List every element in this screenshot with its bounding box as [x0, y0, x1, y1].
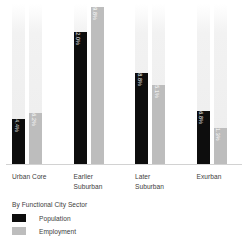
- x-axis-labels: Urban Core Earlier Suburban Later Suburb…: [0, 172, 246, 191]
- bar-population-exurban[interactable]: 16.8%: [197, 111, 210, 164]
- bar-value-label: 16.2%: [30, 113, 35, 126]
- bar-group-earlier-suburban: 42.0% 49.8%: [62, 0, 124, 164]
- label-line-1: Earlier: [74, 172, 124, 182]
- bar-slot-population: 16.8%: [197, 0, 210, 164]
- x-axis-label-urban-core: Urban Core: [0, 172, 62, 191]
- bar-value-label: 14.4%: [13, 119, 18, 132]
- bar-groups: 14.4% 16.2% 42.0%: [0, 0, 246, 164]
- bar-population-later-suburban[interactable]: 28.8%: [135, 73, 148, 164]
- bar-value-label: 28.8%: [136, 73, 141, 86]
- bar-slot-population: 42.0%: [74, 0, 87, 164]
- bar-value-label: 16.8%: [198, 111, 203, 124]
- bar-slot-population: 28.8%: [135, 0, 148, 164]
- x-axis-label-later-suburban: Later Suburban: [123, 172, 185, 191]
- bar-population-earlier-suburban[interactable]: 42.0%: [74, 32, 87, 164]
- label-line-2: Suburban: [135, 182, 185, 192]
- bar-population-urban-core[interactable]: 14.4%: [12, 119, 25, 164]
- legend-item-population[interactable]: Population: [12, 214, 192, 222]
- bar-employment-exurban[interactable]: 11.3%: [214, 128, 227, 164]
- bar-chart: 14.4% 16.2% 42.0%: [0, 0, 246, 250]
- bar-value-label: 42.0%: [75, 32, 80, 45]
- label-line-1: Exurban: [197, 172, 247, 182]
- legend-swatch-population: [12, 214, 26, 222]
- legend-label-employment: Employment: [39, 228, 76, 235]
- bar-value-label: 25.1%: [153, 85, 158, 98]
- label-line-1: Later: [135, 172, 185, 182]
- legend-item-employment[interactable]: Employment: [12, 227, 192, 235]
- x-axis-line: [6, 164, 242, 165]
- bar-employment-later-suburban[interactable]: 25.1%: [152, 85, 165, 164]
- bar-slot-population: 14.4%: [12, 0, 25, 164]
- legend: By Functional City Sector Population Emp…: [12, 201, 192, 240]
- legend-swatch-employment: [12, 227, 26, 235]
- bar-value-label: 11.3%: [215, 128, 220, 141]
- bar-slot-employment: 25.1%: [152, 0, 165, 164]
- bar-value-label: 49.8%: [92, 7, 97, 20]
- bar-employment-earlier-suburban[interactable]: 49.8%: [91, 7, 104, 164]
- bar-slot-employment: 11.3%: [214, 0, 227, 164]
- legend-title: By Functional City Sector: [12, 201, 192, 208]
- bar-group-urban-core: 14.4% 16.2%: [0, 0, 62, 164]
- legend-label-population: Population: [39, 215, 71, 222]
- bar-group-later-suburban: 28.8% 25.1%: [123, 0, 185, 164]
- bar-group-exurban: 16.8% 11.3%: [185, 0, 247, 164]
- x-axis-label-earlier-suburban: Earlier Suburban: [62, 172, 124, 191]
- bar-slot-employment: 49.8%: [91, 0, 104, 164]
- x-axis-label-exurban: Exurban: [185, 172, 247, 191]
- bar-employment-urban-core[interactable]: 16.2%: [29, 113, 42, 164]
- label-line-2: Suburban: [74, 182, 124, 192]
- plot-area: 14.4% 16.2% 42.0%: [0, 0, 246, 166]
- label-line-1: Urban Core: [12, 172, 62, 182]
- bar-slot-employment: 16.2%: [29, 0, 42, 164]
